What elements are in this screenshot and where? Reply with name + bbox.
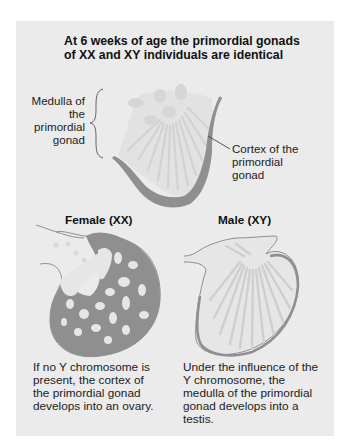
primordial-gonad-icon bbox=[112, 84, 222, 208]
cortex-label: Cortex of the primordial gonad bbox=[232, 142, 312, 181]
male-caption: Under the influence of the Y chromosome,… bbox=[183, 361, 323, 426]
female-caption: If no Y chromosome is present, the corte… bbox=[33, 361, 163, 413]
male-heading: Male (XY) bbox=[218, 213, 271, 227]
female-heading: Female (XX) bbox=[65, 213, 133, 227]
medulla-label: Medulla of the primordial gonad bbox=[27, 94, 85, 146]
medulla-brace bbox=[90, 89, 103, 158]
ovary-icon bbox=[36, 225, 160, 357]
testis-icon bbox=[184, 236, 298, 355]
